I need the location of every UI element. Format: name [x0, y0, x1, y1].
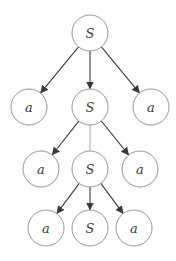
node-label: S [86, 221, 95, 236]
node-label: a [37, 162, 45, 177]
tree-node-s: S [72, 210, 108, 246]
node-label: S [86, 100, 95, 115]
node-label: a [42, 221, 50, 236]
tree-node-a: a [122, 151, 158, 187]
tree-node-s: S [72, 89, 108, 125]
node-label: a [25, 100, 33, 115]
node-label: a [136, 162, 144, 177]
edge-n5-n7 [57, 183, 79, 213]
tree-node-s: S [72, 151, 108, 187]
tree-node-a: a [11, 89, 47, 125]
tree-node-s: S [72, 15, 108, 51]
tree-diagram: SaSaaSaaSa [0, 0, 176, 261]
node-label: a [130, 221, 138, 236]
node-label: a [147, 100, 155, 115]
node-label: S [86, 162, 95, 177]
tree-node-a: a [133, 89, 169, 125]
edge-n2-n4 [53, 121, 79, 154]
edges-layer [41, 47, 139, 213]
edge-n0-n1 [41, 47, 79, 93]
tree-node-a: a [23, 151, 59, 187]
node-label: S [86, 26, 95, 41]
edge-n0-n3 [101, 47, 139, 93]
edge-n2-n6 [101, 121, 128, 155]
edge-n5-n9 [101, 183, 123, 213]
tree-node-a: a [28, 210, 64, 246]
tree-node-a: a [116, 210, 152, 246]
